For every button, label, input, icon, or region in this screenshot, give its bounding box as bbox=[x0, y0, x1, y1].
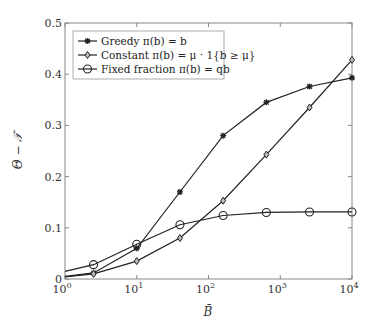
legend-entry: Constant π(b) = μ · 1{b ≥ μ} bbox=[78, 49, 256, 62]
x-tick-label: 103 bbox=[268, 281, 287, 296]
asterisk-marker bbox=[307, 83, 313, 89]
x-tick-label: 102 bbox=[196, 281, 215, 296]
diamond-marker bbox=[177, 235, 182, 242]
x-axis-label: B̄ bbox=[203, 304, 213, 319]
series-line bbox=[65, 60, 352, 277]
legend-label: Fixed fraction π(b) = qb bbox=[101, 63, 230, 75]
y-tick-label: 0.5 bbox=[45, 17, 63, 30]
y-axis-label: Θ − 𝒯 bbox=[11, 129, 25, 170]
series-circle bbox=[65, 208, 356, 271]
line-chart: 10010110210310400.10.20.30.40.5 Greedy π… bbox=[0, 0, 379, 323]
legend-label: Constant π(b) = μ · 1{b ≥ μ} bbox=[101, 49, 256, 62]
series-line bbox=[65, 212, 352, 271]
series-diamond bbox=[65, 56, 355, 277]
y-tick-label: 0 bbox=[55, 273, 62, 286]
legend-entry: Fixed fraction π(b) = qb bbox=[78, 63, 230, 75]
asterisk-marker bbox=[349, 75, 355, 81]
y-tick-label: 0.3 bbox=[45, 119, 63, 132]
legend: Greedy π(b) = bConstant π(b) = μ · 1{b ≥… bbox=[73, 31, 256, 79]
diamond-marker bbox=[134, 258, 139, 265]
y-tick-label: 0.4 bbox=[45, 68, 63, 81]
x-tick-label: 104 bbox=[339, 281, 358, 296]
x-tick-label: 101 bbox=[124, 281, 143, 296]
asterisk-marker bbox=[263, 99, 269, 105]
asterisk-marker bbox=[177, 189, 183, 195]
series-group bbox=[65, 56, 356, 277]
y-tick-label: 0.1 bbox=[45, 222, 63, 235]
asterisk-marker bbox=[220, 133, 226, 139]
legend-label: Greedy π(b) = b bbox=[101, 35, 187, 47]
asterisk-marker bbox=[85, 38, 91, 44]
y-tick-label: 0.2 bbox=[45, 171, 63, 184]
